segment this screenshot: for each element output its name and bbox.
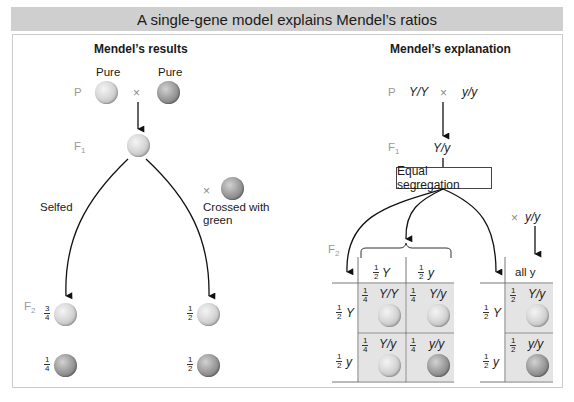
fraction-one-half-yellow: 12 — [187, 305, 193, 322]
generation-f1-label: F1 — [74, 140, 85, 155]
col-header-allele-Y: Y — [382, 266, 390, 280]
crossed-with-green-label: Crossed with green — [203, 201, 269, 227]
cell-genotype: Y/y — [429, 287, 446, 301]
col-header-fraction-Y: 12 — [373, 264, 379, 281]
frac-den: 4 — [45, 365, 49, 373]
f2-selfed-green-pea — [54, 354, 77, 377]
fraction-one-half-green: 12 — [187, 356, 193, 373]
generation-p-label: P — [74, 86, 82, 98]
pure-label-right: Pure — [158, 66, 182, 78]
f2-selfed-yellow-pea — [54, 303, 77, 326]
row-header-fraction-y: 12 — [336, 353, 342, 370]
f-subscript: 1 — [81, 146, 85, 155]
parent-genotype-dominant: Y/Y — [409, 85, 428, 99]
generation-f1-label-right: F1 — [388, 141, 399, 156]
tester-genotype: y/y — [525, 210, 540, 224]
cross-symbol-right: × — [440, 86, 447, 100]
row-header-allele-y: y — [346, 355, 352, 369]
crossed-line-1: Crossed with — [203, 201, 269, 214]
cell-genotype: Y/y — [379, 337, 396, 351]
frac-den: 4 — [363, 296, 367, 304]
equal-segregation-box: Equal segregation — [396, 167, 492, 189]
frac-den: 2 — [374, 273, 378, 281]
punnett-cell-YY: 14 Y/Y — [359, 284, 405, 332]
all-y-label: all y — [515, 266, 535, 278]
cross-symbol-tester: × — [511, 211, 518, 225]
frac-den: 2 — [511, 346, 515, 354]
cross-symbol-green: × — [203, 184, 210, 198]
pure-green-pea — [157, 81, 180, 104]
frac-den: 2 — [337, 313, 341, 321]
left-panel-heading: Mendel’s results — [94, 42, 188, 56]
testcross-cell-Yy: 12 Y/y — [506, 284, 553, 332]
testcross-row-fraction-Y: 12 — [483, 304, 489, 321]
f2-crossed-yellow-pea — [197, 303, 220, 326]
green-pea — [526, 354, 549, 377]
yellow-pea — [427, 304, 450, 327]
testcross-row-allele-Y: Y — [493, 306, 501, 320]
col-header-allele-y: y — [428, 266, 434, 280]
f-letter: F — [24, 300, 31, 312]
frac-den: 4 — [45, 314, 49, 322]
tester-green-pea — [221, 177, 244, 200]
frac-den: 4 — [411, 296, 415, 304]
f2-crossed-green-pea — [197, 354, 220, 377]
yellow-pea — [378, 304, 401, 327]
selfed-label: Selfed — [40, 201, 73, 213]
connector-lines — [0, 0, 574, 402]
parent-genotype-recessive: y/y — [462, 85, 477, 99]
frac-den: 4 — [363, 346, 367, 354]
generation-p-label-right: P — [388, 86, 396, 98]
f-subscript: 2 — [31, 306, 35, 315]
cell-genotype: Y/y — [528, 287, 545, 301]
cross-symbol: × — [133, 86, 140, 100]
generation-f2-label-right: F2 — [328, 243, 339, 258]
frac-den: 2 — [484, 362, 488, 370]
frac-den: 2 — [188, 365, 192, 373]
yellow-pea — [526, 304, 549, 327]
f-letter: F — [328, 243, 335, 255]
yellow-pea — [378, 354, 401, 377]
f1-genotype: Y/y — [433, 141, 450, 155]
testcross-row-allele-y: y — [493, 355, 499, 369]
punnett-cell-Yy-top: 14 Y/y — [407, 284, 454, 332]
testcross-row-fraction-y: 12 — [483, 353, 489, 370]
row-header-allele-Y: Y — [346, 306, 354, 320]
punnett-cell-Yy-bottom: 14 Y/y — [359, 334, 405, 381]
frac-den: 2 — [511, 296, 515, 304]
cell-genotype: Y/Y — [379, 287, 398, 301]
frac-den: 2 — [419, 273, 423, 281]
pure-yellow-pea — [95, 81, 118, 104]
green-pea — [427, 354, 450, 377]
col-header-fraction-y: 12 — [418, 264, 424, 281]
f-subscript: 1 — [395, 147, 399, 156]
testcross-cell-yy: 12 y/y — [506, 334, 553, 381]
f1-yellow-pea — [127, 134, 150, 157]
frac-den: 4 — [411, 346, 415, 354]
f-letter: F — [74, 140, 81, 152]
fraction-three-quarters: 34 — [44, 305, 50, 322]
f-subscript: 2 — [335, 249, 339, 258]
punnett-cell-yy: 14 y/y — [407, 334, 454, 381]
cell-genotype: y/y — [429, 337, 444, 351]
cell-genotype: y/y — [528, 337, 543, 351]
right-panel-heading: Mendel’s explanation — [390, 42, 511, 56]
f-letter: F — [388, 141, 395, 153]
frac-den: 2 — [188, 314, 192, 322]
fraction-one-quarter: 14 — [44, 356, 50, 373]
pure-label-left: Pure — [96, 66, 120, 78]
testcross-col-header: all y — [515, 266, 535, 278]
generation-f2-label-left: F2 — [24, 300, 35, 315]
equal-segregation-label: Equal segregation — [397, 164, 491, 192]
frac-den: 2 — [484, 313, 488, 321]
crossed-line-2: green — [203, 214, 269, 227]
row-header-fraction-Y: 12 — [336, 304, 342, 321]
frac-den: 2 — [337, 362, 341, 370]
